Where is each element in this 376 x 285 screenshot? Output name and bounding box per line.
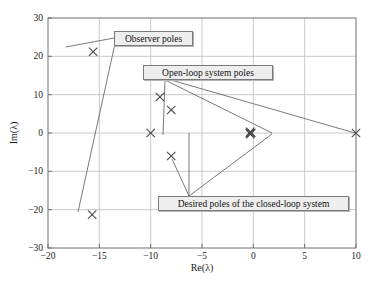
leader-line [66, 38, 114, 47]
y-tick-label: 10 [13, 90, 43, 100]
x-tick-label: 10 [351, 251, 361, 261]
x-tick-label: 5 [302, 251, 307, 261]
callout-text: Open-loop system poles [162, 68, 254, 78]
y-tick-label: −10 [13, 166, 43, 176]
y-tick-label: −30 [13, 243, 43, 253]
y-tick-label: −20 [13, 205, 43, 215]
leader-line [171, 80, 355, 133]
y-tick-label: 30 [13, 13, 43, 23]
pole-marker-x [167, 152, 175, 160]
open-loop-poles-callout: Open-loop system poles [143, 65, 273, 80]
x-tick-label: 0 [251, 251, 256, 261]
pole-marker-x [88, 210, 96, 218]
y-axis-label: Im(λ) [8, 122, 19, 145]
leader-line [163, 80, 165, 135]
desired-poles-callout: Desired poles of the closed-loop system [158, 196, 349, 211]
pole-marker-x [167, 106, 175, 114]
leader-line [189, 134, 272, 196]
callout-text: Observer poles [125, 34, 182, 44]
callout-text: Desired poles of the closed-loop system [178, 199, 330, 209]
leader-line [172, 159, 189, 196]
pole-map-figure: −20−15−10−50510−30−20−100102030 Re(λ) Im… [0, 0, 376, 285]
x-axis-label: Re(λ) [191, 262, 214, 273]
x-tick-label: −10 [143, 251, 158, 261]
y-tick-label: 20 [13, 51, 43, 61]
x-tick-label: −5 [197, 251, 207, 261]
x-tick-label: −15 [92, 251, 107, 261]
pole-marker-x [156, 93, 164, 101]
pole-marker-x [89, 48, 97, 56]
leader-line [78, 39, 116, 212]
observer-poles-callout: Observer poles [114, 31, 193, 46]
leader-line [165, 80, 272, 133]
